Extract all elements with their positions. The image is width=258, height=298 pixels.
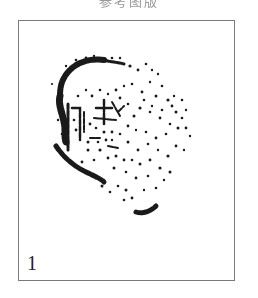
seal-border-strokes: [56, 59, 156, 212]
figure-number: 1: [27, 253, 37, 273]
seal-glyph-strokes: [68, 100, 124, 150]
seal-ink-dots: [51, 55, 191, 202]
seal-impression-image: [0, 0, 258, 298]
